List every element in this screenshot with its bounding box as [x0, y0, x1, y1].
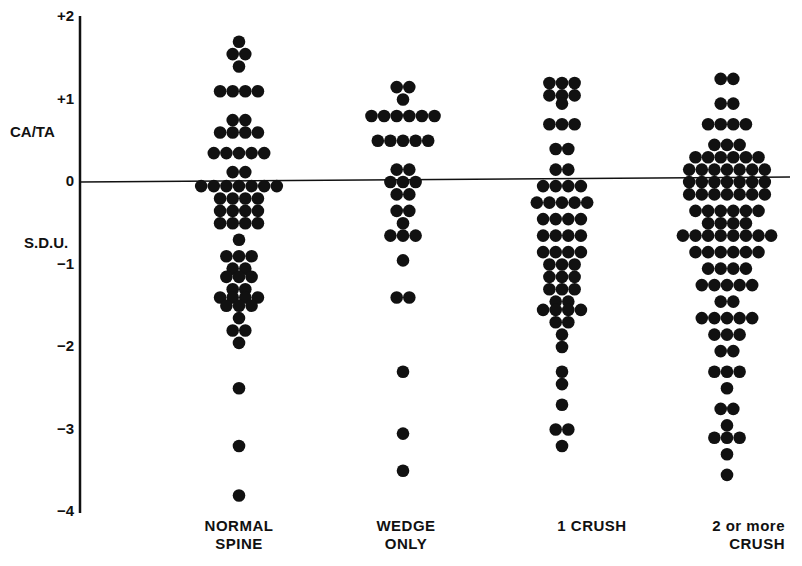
- category-line-1: NORMAL: [189, 517, 289, 535]
- data-point: [740, 246, 753, 259]
- data-point: [543, 89, 556, 102]
- data-point: [403, 205, 416, 218]
- data-point: [727, 151, 740, 164]
- data-point: [746, 163, 759, 176]
- data-point: [258, 180, 271, 193]
- data-point: [220, 271, 233, 284]
- data-point: [390, 291, 403, 304]
- data-point: [416, 110, 429, 123]
- data-point: [708, 279, 721, 292]
- data-point: [239, 192, 252, 205]
- category-line-2: CRUSH: [670, 535, 785, 553]
- data-point: [226, 324, 239, 337]
- data-point: [721, 312, 734, 325]
- y-tick-label: −1: [14, 255, 74, 272]
- data-point: [245, 180, 258, 193]
- data-point: [226, 126, 239, 139]
- y-tick-label: −2: [14, 337, 74, 354]
- y-tick-label: 0: [14, 172, 74, 189]
- data-point: [568, 118, 581, 131]
- data-point: [543, 77, 556, 90]
- data-point: [733, 328, 746, 341]
- data-point: [397, 176, 410, 189]
- data-point: [733, 139, 746, 152]
- data-point: [689, 229, 702, 242]
- data-point: [568, 271, 581, 284]
- data-point: [733, 432, 746, 445]
- data-point: [556, 283, 569, 296]
- data-point: [714, 246, 727, 259]
- data-point: [549, 213, 562, 226]
- data-point: [677, 229, 690, 242]
- data-point: [721, 139, 734, 152]
- data-point: [689, 151, 702, 164]
- data-point: [727, 246, 740, 259]
- data-point: [397, 366, 410, 379]
- data-point: [727, 345, 740, 358]
- data-point: [733, 176, 746, 189]
- data-point: [702, 205, 715, 218]
- data-point: [226, 85, 239, 98]
- data-point: [403, 81, 416, 94]
- data-point: [733, 188, 746, 201]
- data-point: [562, 229, 575, 242]
- data-point: [252, 217, 265, 230]
- data-point: [752, 229, 765, 242]
- data-point: [397, 254, 410, 267]
- data-point: [220, 250, 233, 263]
- category-label-1-crush: 1 CRUSH: [542, 517, 642, 535]
- data-point: [727, 295, 740, 308]
- data-point: [556, 378, 569, 391]
- data-point: [556, 271, 569, 284]
- data-point: [422, 135, 435, 148]
- data-point: [568, 258, 581, 271]
- data-point: [252, 85, 265, 98]
- data-point: [721, 382, 734, 395]
- data-point: [575, 213, 588, 226]
- data-point: [543, 118, 556, 131]
- data-point: [390, 110, 403, 123]
- data-point: [549, 423, 562, 436]
- data-point: [549, 143, 562, 156]
- data-point: [239, 166, 252, 179]
- data-point: [752, 246, 765, 259]
- data-point: [239, 48, 252, 61]
- y-tick-label: +1: [14, 90, 74, 107]
- data-point: [721, 328, 734, 341]
- y-axis-label-sdu: S.D.U.: [24, 234, 68, 251]
- category-line-2: SPINE: [189, 535, 289, 553]
- data-point: [543, 196, 556, 209]
- data-point: [740, 151, 753, 164]
- data-point: [239, 126, 252, 139]
- data-point: [727, 73, 740, 86]
- data-point: [233, 382, 246, 395]
- data-point: [239, 324, 252, 337]
- data-point: [733, 366, 746, 379]
- data-point: [746, 312, 759, 325]
- data-point: [390, 205, 403, 218]
- data-point: [390, 81, 403, 94]
- dot-plot: [0, 0, 802, 566]
- data-point: [740, 262, 753, 275]
- data-point: [226, 205, 239, 218]
- data-point: [696, 312, 709, 325]
- data-point: [403, 163, 416, 176]
- data-point: [727, 262, 740, 275]
- data-point: [220, 300, 233, 313]
- data-point: [397, 427, 410, 440]
- data-point: [397, 135, 410, 148]
- data-point: [714, 205, 727, 218]
- data-point: [226, 114, 239, 127]
- data-point: [727, 403, 740, 416]
- data-point: [708, 139, 721, 152]
- data-point: [537, 304, 550, 317]
- data-point: [220, 180, 233, 193]
- data-point: [549, 316, 562, 329]
- data-point: [233, 489, 246, 502]
- data-point: [233, 234, 246, 247]
- data-point: [568, 283, 581, 296]
- data-point: [556, 366, 569, 379]
- data-point: [683, 188, 696, 201]
- data-point: [252, 192, 265, 205]
- data-point: [195, 180, 208, 193]
